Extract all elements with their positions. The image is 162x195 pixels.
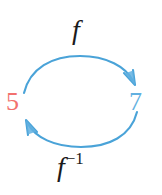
codomain-value-label: 7 [129,89,142,115]
function-label-f-inverse: f−1 [57,152,83,181]
function-inverse-diagram: 5 7 f f−1 [0,0,162,195]
domain-value-label: 5 [6,89,19,115]
function-label-f: f [72,16,80,44]
forward-arrow-arc [24,56,133,93]
inverse-label-exponent: −1 [66,149,84,168]
inverse-label-base: f [57,151,65,182]
inverse-arrow-arc [28,112,137,147]
